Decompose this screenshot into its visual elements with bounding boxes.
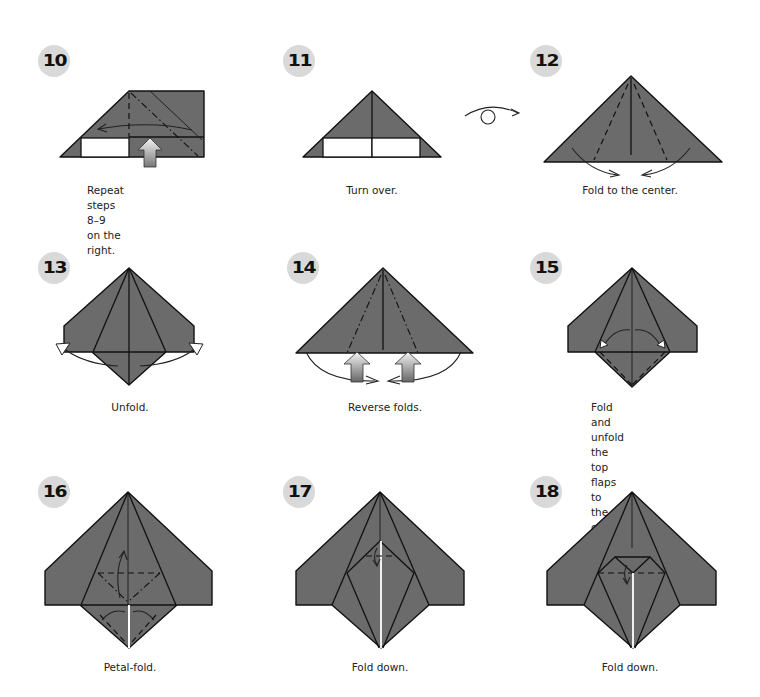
step-18-diagram xyxy=(0,0,760,697)
caption-line: Fold down. xyxy=(580,660,680,675)
step-18-caption: Fold down. xyxy=(580,660,680,675)
